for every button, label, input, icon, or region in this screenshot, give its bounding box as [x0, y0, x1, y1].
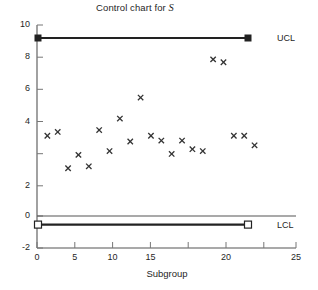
lcl-start-marker — [35, 221, 42, 228]
data-point — [221, 60, 226, 65]
data-point — [65, 166, 70, 171]
data-point — [169, 151, 174, 156]
ucl-label: UCL — [277, 33, 295, 43]
y-tick-label-2: 2 — [4, 180, 30, 190]
y-tick-label-6: 6 — [4, 83, 30, 93]
y-tick-label-0: 0 — [4, 210, 30, 220]
data-point — [148, 133, 153, 138]
data-point — [252, 143, 257, 148]
data-point — [107, 148, 112, 153]
lcl-series — [35, 221, 252, 228]
data-point — [200, 148, 205, 153]
data-point-group — [45, 57, 258, 171]
data-point — [76, 152, 81, 157]
y-tick-label-8: 8 — [4, 51, 30, 61]
y-tick-label-4: 4 — [4, 116, 30, 126]
data-point — [117, 116, 122, 121]
data-point — [45, 133, 50, 138]
x-tick-label-10: 10 — [103, 252, 123, 262]
x-tick-label-5: 5 — [65, 252, 85, 262]
data-point — [55, 129, 60, 134]
x-axis-title: Subgroup — [87, 268, 247, 279]
data-point — [159, 138, 164, 143]
x-tick-label-0: 0 — [27, 252, 47, 262]
y-axis-ticks — [37, 25, 43, 248]
x-tick-label-15: 15 — [140, 252, 160, 262]
data-point — [242, 133, 247, 138]
data-point — [96, 127, 101, 132]
data-point — [128, 139, 133, 144]
ucl-series — [35, 35, 252, 42]
lcl-label: LCL — [277, 220, 294, 230]
data-point — [210, 57, 215, 62]
control-chart-figure: Control chart for S — [0, 0, 318, 290]
plot-area — [0, 0, 318, 290]
x-tick-label-25: 25 — [286, 252, 306, 262]
data-point — [138, 95, 143, 100]
ucl-start-marker — [35, 35, 42, 42]
data-point — [86, 164, 91, 169]
x-axis-ticks — [37, 242, 296, 248]
y-tick-label-10: 10 — [4, 19, 30, 29]
y-tick-label-neg2: -2 — [4, 242, 30, 252]
x-tick-label-20: 20 — [216, 252, 236, 262]
data-point — [179, 138, 184, 143]
ucl-end-marker — [245, 35, 252, 42]
data-point — [231, 133, 236, 138]
data-point — [190, 146, 195, 151]
lcl-end-marker — [245, 221, 252, 228]
